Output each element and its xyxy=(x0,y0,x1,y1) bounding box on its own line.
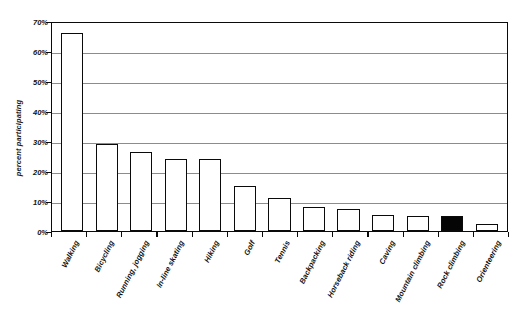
x-axis-category-label: Hiking xyxy=(203,239,222,264)
x-axis-category-label: Walking xyxy=(59,239,80,269)
y-axis-tick-label: 40% xyxy=(22,108,48,117)
bar[interactable] xyxy=(234,186,256,231)
bar[interactable] xyxy=(268,198,290,231)
x-axis-category-label: Caving xyxy=(378,239,398,266)
bar[interactable] xyxy=(61,33,83,231)
bar-slot xyxy=(90,23,125,231)
x-axis-category-label: Backpacking xyxy=(297,239,327,285)
x-axis-category-label: Horseback riding xyxy=(325,239,362,299)
bar-slot xyxy=(366,23,401,231)
x-axis-category-label: Orienteering xyxy=(474,239,503,284)
bar-slot xyxy=(400,23,435,231)
bars-container xyxy=(52,23,507,231)
x-axis-tick-mark xyxy=(121,232,122,237)
y-axis-tick-label: 10% xyxy=(22,198,48,207)
x-axis-tick-mark xyxy=(262,232,263,237)
bar[interactable] xyxy=(476,224,498,232)
x-axis-tick-mark xyxy=(297,232,298,237)
bar[interactable] xyxy=(337,209,359,232)
bar-chart: percent participating 0%10%20%30%40%50%6… xyxy=(0,0,527,325)
bar[interactable] xyxy=(303,207,325,231)
x-axis-category-labels: WalkingBicyclingRunning, joggingIn-line … xyxy=(51,239,508,325)
bar-slot xyxy=(124,23,159,231)
bar[interactable] xyxy=(441,216,463,231)
x-axis-tick-mark xyxy=(508,232,509,237)
y-axis-tick-label: 50% xyxy=(22,78,48,87)
bar-slot xyxy=(435,23,470,231)
x-axis-category-label: Golf xyxy=(242,239,257,257)
x-axis-tick-mark xyxy=(438,232,439,237)
x-axis-tick-mark xyxy=(192,232,193,237)
bar[interactable] xyxy=(199,159,221,231)
x-axis-category-label: Rock climbing xyxy=(436,239,468,290)
y-axis-tick-labels: 0%10%20%30%40%50%60%70% xyxy=(20,0,48,325)
bar-slot xyxy=(159,23,194,231)
y-axis-tick-label: 0% xyxy=(22,228,48,237)
bar[interactable] xyxy=(96,144,118,231)
x-axis-tick-marks xyxy=(51,232,508,238)
x-axis-tick-mark xyxy=(227,232,228,237)
x-axis-category-label: Running, jogging xyxy=(114,239,151,299)
y-axis-tick-label: 30% xyxy=(22,138,48,147)
x-axis-tick-mark xyxy=(51,232,52,237)
bar[interactable] xyxy=(165,159,187,231)
x-axis-tick-mark xyxy=(473,232,474,237)
x-axis-tick-mark xyxy=(156,232,157,237)
y-axis-tick-label: 60% xyxy=(22,48,48,57)
x-axis-category-label: Tennis xyxy=(273,239,292,265)
bar[interactable] xyxy=(407,216,429,231)
plot-area xyxy=(51,22,508,232)
bar-slot xyxy=(193,23,228,231)
bar-slot xyxy=(262,23,297,231)
bar-slot xyxy=(331,23,366,231)
bar-slot xyxy=(55,23,90,231)
bar-slot xyxy=(228,23,263,231)
y-axis-tick-label: 20% xyxy=(22,168,48,177)
x-axis-category-label: Mountain climbing xyxy=(393,239,432,304)
x-axis-category-label: In-line skating xyxy=(155,239,187,289)
y-axis-tick-label: 70% xyxy=(22,18,48,27)
bar[interactable] xyxy=(130,152,152,232)
x-axis-category-label: Bicycling xyxy=(92,239,116,274)
bar-slot xyxy=(297,23,332,231)
x-axis-tick-mark xyxy=(403,232,404,237)
x-axis-tick-mark xyxy=(367,232,368,237)
bar-slot xyxy=(469,23,504,231)
x-axis-tick-mark xyxy=(332,232,333,237)
x-axis-tick-mark xyxy=(86,232,87,237)
bar[interactable] xyxy=(372,215,394,232)
